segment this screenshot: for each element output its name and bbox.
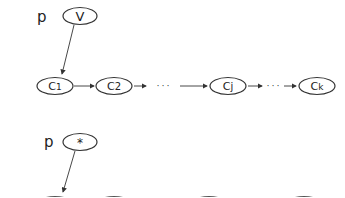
bottom-chain-node-2: [96, 197, 132, 198]
chain-node-cj: Cj: [210, 78, 246, 95]
bottom-pointer-label: p: [44, 133, 54, 151]
bottom-chain-node-1: [37, 197, 73, 198]
chain-node-c1: C1: [37, 78, 73, 95]
ellipsis-1: · · ·: [157, 82, 170, 91]
top-chain: C1 C2 · · · Cj · · · Ck: [37, 78, 335, 95]
bottom-pointer: p *: [44, 133, 97, 192]
bottom-chain-node-4: [286, 197, 322, 198]
chain-node-c2: C2: [96, 78, 132, 95]
bottom-chain-partial: [37, 197, 322, 198]
bottom-pointer-arrow: [63, 151, 75, 192]
top-pointer-value: V: [76, 9, 85, 24]
linked-list-diagram: p V C1 C2 · · · Cj · · · Ck: [0, 0, 345, 197]
bottom-chain-node-3: [191, 197, 227, 198]
svg-text:Ck: Ck: [311, 80, 325, 93]
ellipsis-2: · · ·: [267, 82, 280, 91]
svg-text:C2: C2: [107, 80, 121, 93]
top-pointer: p V: [37, 8, 97, 75]
svg-text:C1: C1: [48, 80, 61, 93]
top-pointer-label: p: [37, 8, 47, 26]
top-pointer-arrow: [62, 25, 74, 74]
svg-text:Cj: Cj: [223, 80, 233, 93]
chain-node-ck: Ck: [299, 78, 335, 95]
bottom-pointer-value: *: [77, 136, 83, 150]
